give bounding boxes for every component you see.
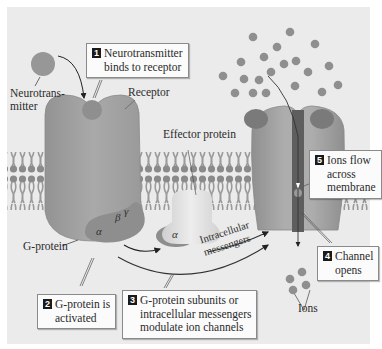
beta-subunit-label: β xyxy=(115,211,120,223)
effector-protein-label: Effector protein xyxy=(163,128,236,141)
intracellular-ions xyxy=(286,268,311,295)
step-badge: 2 xyxy=(43,299,52,309)
ions-label: Ions xyxy=(298,302,318,315)
free-neurotransmitter xyxy=(31,52,55,76)
step-badge: 3 xyxy=(128,295,137,305)
extracellular-ions xyxy=(219,28,343,98)
callout-step-4: 4Channel opens xyxy=(317,246,379,281)
callout-step-1: 1Neurotransmitter binds to receptor xyxy=(86,43,189,78)
g-protein-label: G-protein xyxy=(23,240,68,253)
neurotransmitter-label: Neurotrans- mitter xyxy=(10,87,65,113)
free-alpha-label: α xyxy=(172,228,178,240)
step-badge: 4 xyxy=(323,251,332,261)
receptor-label: Receptor xyxy=(128,86,170,99)
callout-step-3: 3G-protein subunits or intracellular mes… xyxy=(122,290,257,339)
callout-step-2: 2G-protein is activated xyxy=(37,294,116,329)
alpha-subunit-label: α xyxy=(96,225,102,237)
gamma-subunit-label: γ xyxy=(124,205,128,217)
step-badge: 5 xyxy=(315,155,324,165)
callout-step-5: 5Ions flow across membrane xyxy=(309,150,382,199)
bound-neurotransmitter xyxy=(82,100,102,120)
step-badge: 1 xyxy=(92,48,101,58)
